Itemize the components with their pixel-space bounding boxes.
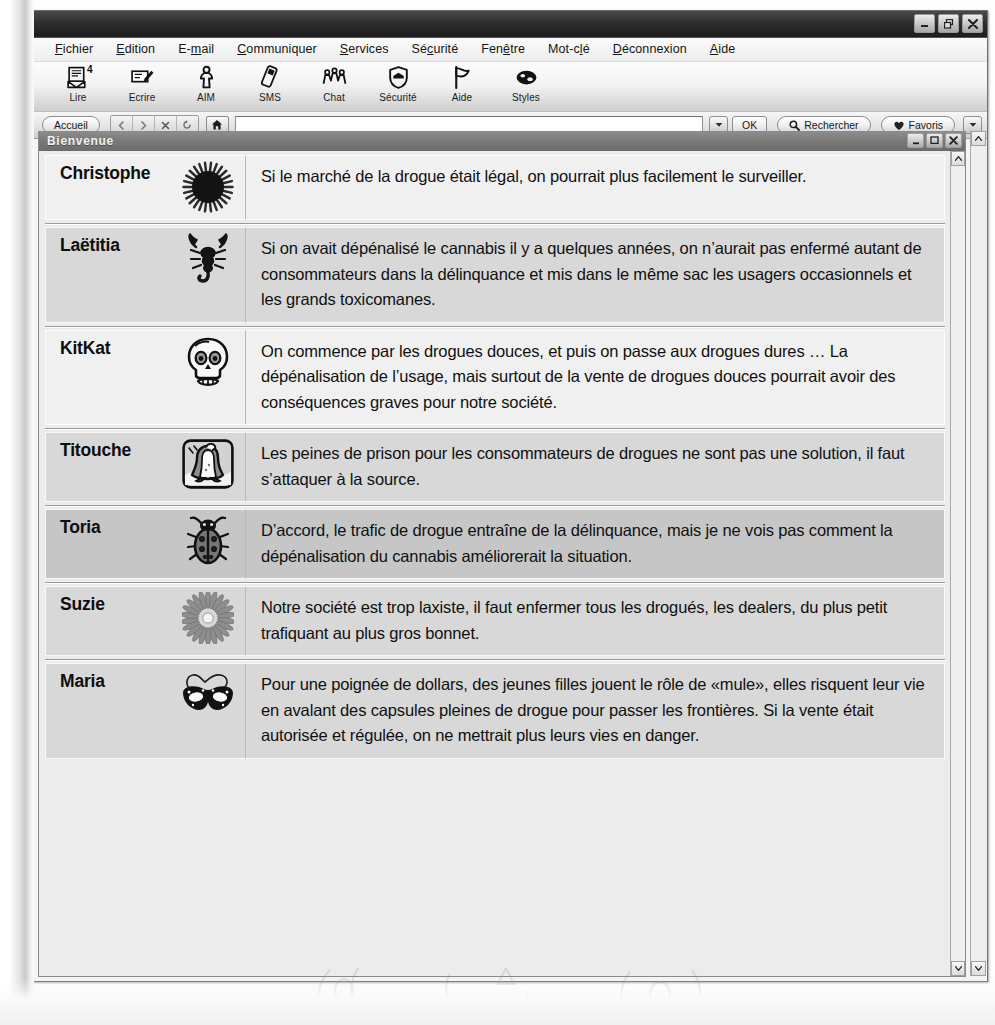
application-scrollbar[interactable]	[970, 131, 986, 976]
message-row[interactable]: MariaPour une poignée de dollars, des je…	[45, 663, 945, 759]
reload-icon	[182, 120, 192, 130]
app-scroll-down-button[interactable]	[971, 961, 986, 976]
toolbar-button-sms[interactable]: SMS	[238, 64, 302, 108]
scorpion-icon	[183, 233, 233, 285]
message-row[interactable]: LaëtitiaSi on avait dépénalisé le cannab…	[45, 227, 945, 323]
app-scroll-track[interactable]	[971, 146, 986, 961]
close-button[interactable]	[962, 14, 983, 33]
chevron-down-icon	[955, 966, 962, 971]
message-row[interactable]: ToriaD’accord, le trafic de drogue entra…	[45, 509, 945, 579]
message-list: ChristopheSi le marché de la drogue étai…	[39, 151, 950, 976]
toolbar-button-aim[interactable]: AIM	[174, 64, 238, 108]
person-icon	[194, 65, 219, 90]
menu-item-edition[interactable]: Edition	[105, 40, 166, 59]
mobile-phone-icon	[258, 65, 283, 90]
message-row[interactable]: ChristopheSi le marché de la drogue étai…	[45, 155, 945, 220]
menu-item-s-curit-[interactable]: Sécurité	[401, 40, 470, 59]
document-minimize-button[interactable]	[907, 133, 924, 148]
chevron-down-icon	[975, 966, 982, 971]
icon-toolbar: 4LireEcrireAIMSMSChatSécuritéAideStyles	[34, 62, 987, 112]
toolbar-button-ecrire[interactable]: Ecrire	[110, 64, 174, 108]
person-icon-wrap	[194, 64, 219, 91]
people-group-icon	[322, 65, 347, 90]
message-text: Si on avait dépénalisé le cannabis il y …	[245, 227, 945, 323]
ok-label: OK	[742, 119, 757, 131]
message-author-name: Christophe	[60, 163, 150, 183]
application-window: FichierEditionE-mailCommuniquerServicesS…	[33, 10, 988, 982]
toolbar-button-label: AIM	[197, 92, 215, 103]
favorites-label: Favoris	[909, 119, 943, 131]
daisy-flower-icon	[182, 592, 234, 644]
message-text: Notre société est trop laxiste, il faut …	[245, 586, 945, 656]
chevron-down-icon	[969, 122, 977, 128]
document-window: Bienvenue	[38, 131, 966, 977]
message-text: D’accord, le trafic de drogue entraîne d…	[245, 509, 945, 579]
menu-item-e-mail[interactable]: E-mail	[167, 40, 225, 59]
toolbar-button-label: Ecrire	[129, 92, 156, 103]
scroll-down-button[interactable]	[951, 961, 965, 976]
shield-icon-wrap	[386, 64, 411, 91]
heart-icon	[893, 120, 905, 131]
message-author-name: Maria	[60, 671, 105, 691]
skull-icon	[183, 336, 233, 388]
document-close-button[interactable]	[945, 133, 962, 148]
message-author-name: Titouche	[60, 440, 131, 460]
menu-item-mot-cl-[interactable]: Mot-clé	[537, 40, 601, 59]
message-author-name: Toria	[60, 517, 101, 537]
toolbar-button-chat[interactable]: Chat	[302, 64, 366, 108]
restore-button[interactable]	[938, 14, 959, 33]
menu-item-services[interactable]: Services	[329, 40, 400, 59]
page-edge-shadow	[0, 0, 34, 1025]
app-scroll-up-button[interactable]	[971, 131, 986, 146]
message-row[interactable]: SuzieNotre société est trop laxiste, il …	[45, 586, 945, 656]
home-icon	[211, 119, 223, 131]
toolbar-button-label: Aide	[452, 92, 472, 103]
mail-write-icon-wrap	[130, 64, 155, 91]
toolbar-button-lire[interactable]: 4Lire	[46, 64, 110, 108]
scroll-track[interactable]	[951, 166, 965, 961]
message-row[interactable]: TitoucheLes peines de prison pour les co…	[45, 432, 945, 502]
scanned-page: FichierEditionE-mailCommuniquerServicesS…	[0, 0, 995, 1025]
dark-sun-icon	[182, 161, 234, 213]
message-author-cell: KitKat	[45, 330, 245, 426]
avatar	[179, 669, 237, 721]
mobile-phone-icon-wrap	[258, 64, 283, 91]
menu-item-d-connexion[interactable]: Déconnexion	[602, 40, 698, 59]
carnival-mask-icon	[179, 672, 237, 718]
menu-item-aide[interactable]: Aide	[699, 40, 746, 59]
message-text: Si le marché de la drogue était légal, o…	[245, 155, 945, 220]
avatar	[179, 438, 237, 490]
flag-icon-wrap	[450, 64, 475, 91]
menu-item-communiquer[interactable]: Communiquer	[226, 40, 328, 59]
menu-item-fen-tre[interactable]: Fenêtre	[470, 40, 536, 59]
message-author-name: KitKat	[60, 338, 110, 358]
chevron-down-icon	[715, 122, 723, 128]
toolbar-button-label: Chat	[323, 92, 345, 103]
back-icon	[117, 121, 126, 130]
message-author-cell: Laëtitia	[45, 227, 245, 323]
application-titlebar	[34, 11, 987, 38]
message-author-name: Suzie	[60, 594, 105, 614]
chevron-up-icon	[975, 136, 982, 141]
avatar	[179, 233, 237, 285]
scroll-up-button[interactable]	[951, 151, 965, 166]
message-author-cell: Suzie	[45, 586, 245, 656]
document-maximize-button[interactable]	[926, 133, 943, 148]
message-list-scrollbar[interactable]	[950, 151, 965, 976]
minimize-button[interactable]	[914, 14, 935, 33]
toolbar-unread-badge: 4	[87, 64, 93, 75]
page-bottom-shadow	[0, 979, 995, 1025]
minimize-icon	[920, 19, 929, 28]
message-row[interactable]: KitKatOn commence par les drogues douces…	[45, 330, 945, 426]
chevron-up-icon	[955, 156, 962, 161]
document-window-controls	[907, 133, 962, 148]
message-author-cell: Maria	[45, 663, 245, 759]
document-titlebar: Bienvenue	[39, 132, 965, 152]
toolbar-button-aide[interactable]: Aide	[430, 64, 494, 108]
toolbar-button-s-curit-[interactable]: Sécurité	[366, 64, 430, 108]
menu-item-fichier[interactable]: Fichier	[44, 40, 104, 59]
toolbar-button-label: Styles	[512, 92, 540, 103]
restore-icon	[944, 19, 954, 29]
toolbar-button-styles[interactable]: Styles	[494, 64, 558, 108]
avatar	[179, 592, 237, 644]
